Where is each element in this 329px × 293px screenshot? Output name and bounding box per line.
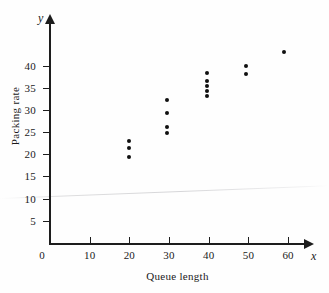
data-point [205, 89, 209, 93]
plot-area: y x 510152025303540 0102030405060 Packin… [0, 0, 329, 293]
y-tick-label: 10 [10, 194, 36, 205]
data-point [205, 79, 209, 83]
data-point [244, 72, 248, 76]
x-tick-label: 40 [195, 250, 223, 261]
y-axis-variable-label: y [38, 11, 43, 26]
x-tick-mark [248, 237, 249, 244]
y-tick-mark [43, 199, 50, 200]
y-tick-mark [43, 132, 50, 133]
x-axis-arrow-icon [304, 239, 314, 249]
data-point [127, 139, 131, 143]
data-point [282, 50, 286, 54]
y-tick-mark [43, 66, 50, 67]
x-axis-line [49, 243, 306, 245]
y-axis-line [49, 22, 51, 245]
y-tick-mark [43, 221, 50, 222]
y-axis-arrow-icon [45, 14, 55, 24]
y-axis-title: Packing rate [9, 56, 21, 176]
data-point [205, 94, 209, 98]
x-tick-mark [209, 237, 210, 244]
data-point [127, 155, 131, 159]
scatter-plot-figure: y x 510152025303540 0102030405060 Packin… [0, 0, 329, 293]
x-tick-label: 50 [234, 250, 262, 261]
data-point [244, 64, 248, 68]
x-tick-mark [129, 237, 130, 244]
x-tick-label: 20 [115, 250, 143, 261]
data-point [165, 125, 169, 129]
data-point [165, 98, 169, 102]
x-axis-title: Queue length [49, 270, 306, 282]
data-point [165, 111, 169, 115]
x-tick-label: 10 [76, 250, 104, 261]
x-tick-label: 60 [274, 250, 302, 261]
y-tick-mark [43, 176, 50, 177]
y-tick-label: 5 [10, 216, 36, 227]
data-point [165, 131, 169, 135]
data-point [127, 146, 131, 150]
data-point [205, 71, 209, 75]
x-tick-label: 30 [155, 250, 183, 261]
x-tick-mark [288, 237, 289, 244]
y-tick-mark [43, 88, 50, 89]
data-point [205, 84, 209, 88]
x-tick-label: 0 [28, 250, 56, 261]
y-tick-mark [43, 110, 50, 111]
x-tick-mark [169, 237, 170, 244]
x-axis-variable-label: x [311, 249, 316, 264]
x-tick-mark [90, 237, 91, 244]
y-tick-mark [43, 154, 50, 155]
